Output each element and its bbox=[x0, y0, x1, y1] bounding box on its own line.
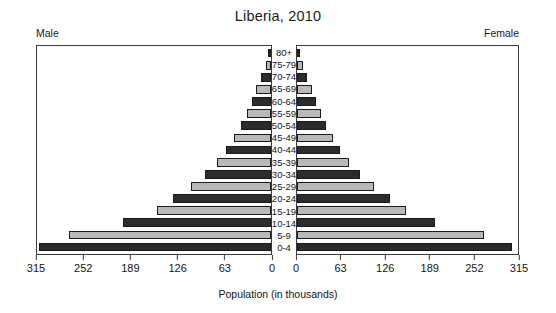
x-axis-caption: Population (in thousands) bbox=[0, 288, 556, 300]
bar-male-0-4 bbox=[39, 243, 272, 252]
female-bar-rows bbox=[297, 46, 518, 254]
age-label: 45-49 bbox=[272, 132, 296, 144]
axis-tick: 189 bbox=[121, 255, 139, 274]
bar-female-40-44 bbox=[297, 146, 340, 155]
male-plot-panel bbox=[36, 45, 272, 255]
bar-row bbox=[37, 168, 271, 180]
female-plot-panel bbox=[296, 45, 519, 255]
axis-tick: 63 bbox=[334, 255, 346, 274]
bar-female-65-69 bbox=[297, 85, 312, 94]
age-label: 10-14 bbox=[272, 217, 296, 229]
tick-label: 252 bbox=[74, 262, 92, 274]
bar-male-50-54 bbox=[241, 121, 271, 130]
tick-label: 63 bbox=[334, 262, 346, 274]
tick-label: 252 bbox=[465, 262, 483, 274]
bar-row bbox=[297, 229, 518, 241]
bar-female-10-14 bbox=[297, 218, 435, 227]
age-label: 40-44 bbox=[272, 144, 296, 156]
female-side-label: Female bbox=[484, 27, 519, 39]
age-label: 35-39 bbox=[272, 156, 296, 168]
bar-row bbox=[37, 180, 271, 192]
bar-female-15-19 bbox=[297, 206, 406, 215]
bar-male-35-39 bbox=[217, 158, 271, 167]
bar-female-70-74 bbox=[297, 73, 307, 82]
age-label: 70-74 bbox=[272, 70, 296, 82]
axis-tick: 126 bbox=[168, 255, 186, 274]
tick-mark bbox=[130, 255, 131, 260]
bar-male-75-79 bbox=[266, 61, 271, 70]
axis-tick: 252 bbox=[74, 255, 92, 274]
bar-female-75-79 bbox=[297, 61, 303, 70]
bar-row bbox=[37, 47, 271, 59]
tick-label: 189 bbox=[421, 262, 439, 274]
tick-label: 63 bbox=[219, 262, 231, 274]
bar-row bbox=[37, 229, 271, 241]
axis-tick: 252 bbox=[465, 255, 483, 274]
bar-female-0-4 bbox=[297, 243, 512, 252]
bar-row bbox=[297, 193, 518, 205]
bar-male-15-19 bbox=[157, 206, 271, 215]
age-label: 60-64 bbox=[272, 95, 296, 107]
bar-male-65-69 bbox=[256, 85, 271, 94]
bar-row bbox=[297, 168, 518, 180]
bar-male-30-34 bbox=[205, 170, 271, 179]
age-label: 15-19 bbox=[272, 205, 296, 217]
bar-row bbox=[37, 241, 271, 253]
age-label: 65-69 bbox=[272, 83, 296, 95]
bar-female-5-9 bbox=[297, 231, 484, 240]
age-label: 0-4 bbox=[272, 242, 296, 254]
bar-row bbox=[37, 120, 271, 132]
tick-mark bbox=[177, 255, 178, 260]
tick-mark bbox=[272, 255, 273, 260]
tick-label: 189 bbox=[121, 262, 139, 274]
bar-row bbox=[297, 156, 518, 168]
tick-mark bbox=[224, 255, 225, 260]
bar-male-20-24 bbox=[173, 194, 271, 203]
bar-row bbox=[297, 108, 518, 120]
tick-label: 126 bbox=[168, 262, 186, 274]
bar-row bbox=[297, 241, 518, 253]
bar-female-60-64 bbox=[297, 97, 316, 106]
bar-row bbox=[37, 205, 271, 217]
bar-row bbox=[37, 217, 271, 229]
bar-male-55-59 bbox=[247, 109, 272, 118]
bar-male-10-14 bbox=[123, 218, 271, 227]
age-label: 75-79 bbox=[272, 58, 296, 70]
age-group-labels: 80+75-7970-7465-6960-6455-5950-5445-4940… bbox=[272, 45, 296, 255]
bar-male-70-74 bbox=[261, 73, 271, 82]
bar-row bbox=[37, 193, 271, 205]
bar-female-55-59 bbox=[297, 109, 321, 118]
bar-female-30-34 bbox=[297, 170, 360, 179]
bar-female-20-24 bbox=[297, 194, 390, 203]
tick-label: 126 bbox=[376, 262, 394, 274]
bar-row bbox=[297, 47, 518, 59]
age-label: 20-24 bbox=[272, 193, 296, 205]
age-label: 80+ bbox=[272, 46, 296, 58]
bar-female-35-39 bbox=[297, 158, 349, 167]
bar-row bbox=[297, 71, 518, 83]
bar-row bbox=[297, 132, 518, 144]
bar-row bbox=[37, 144, 271, 156]
bar-row bbox=[297, 217, 518, 229]
chart-title: Liberia, 2010 bbox=[0, 8, 556, 24]
axis-tick: 315 bbox=[27, 255, 45, 274]
bar-female-25-29 bbox=[297, 182, 374, 191]
bar-row bbox=[297, 120, 518, 132]
tick-mark bbox=[83, 255, 84, 260]
axis-tick: 315 bbox=[510, 255, 528, 274]
age-label: 30-34 bbox=[272, 168, 296, 180]
bar-row bbox=[37, 156, 271, 168]
tick-label: 0 bbox=[269, 262, 275, 274]
age-label: 50-54 bbox=[272, 119, 296, 131]
tick-mark bbox=[35, 255, 36, 260]
axis-tick: 126 bbox=[376, 255, 394, 274]
axis-tick: 189 bbox=[421, 255, 439, 274]
bar-female-50-54 bbox=[297, 121, 326, 130]
bar-row bbox=[297, 144, 518, 156]
tick-mark bbox=[518, 255, 519, 260]
tick-label: 315 bbox=[510, 262, 528, 274]
tick-mark bbox=[474, 255, 475, 260]
bar-row bbox=[297, 59, 518, 71]
bar-row bbox=[297, 205, 518, 217]
bar-male-60-64 bbox=[252, 97, 271, 106]
